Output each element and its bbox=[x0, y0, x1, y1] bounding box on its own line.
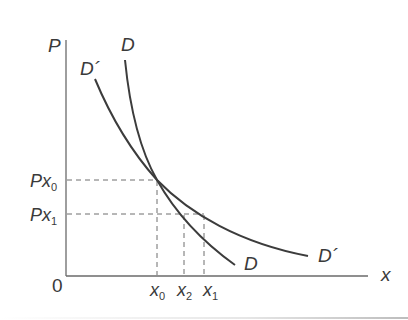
demand-diagram: P x 0 D D´ D D´ Px0 Px1 x0 x2 x1 bbox=[0, 0, 408, 320]
x-axis-label: x bbox=[380, 264, 392, 285]
y-axis-label: P bbox=[48, 35, 61, 56]
bottom-rule bbox=[0, 317, 408, 319]
quantity-label-x0: x0 bbox=[149, 280, 165, 302]
demand-curve-d-prime bbox=[95, 79, 308, 256]
price-label-px1: Px1 bbox=[30, 205, 57, 227]
curve-d-bottom-label: D bbox=[244, 253, 258, 274]
curve-d-top-label: D bbox=[121, 34, 135, 55]
price-label-px0: Px0 bbox=[30, 171, 57, 193]
curve-d-prime-top-label: D´ bbox=[80, 58, 101, 79]
quantity-label-x1: x1 bbox=[202, 280, 218, 302]
origin-label: 0 bbox=[52, 275, 63, 296]
quantity-label-x2: x2 bbox=[176, 280, 192, 302]
curve-d-prime-bottom-label: D´ bbox=[318, 245, 339, 266]
